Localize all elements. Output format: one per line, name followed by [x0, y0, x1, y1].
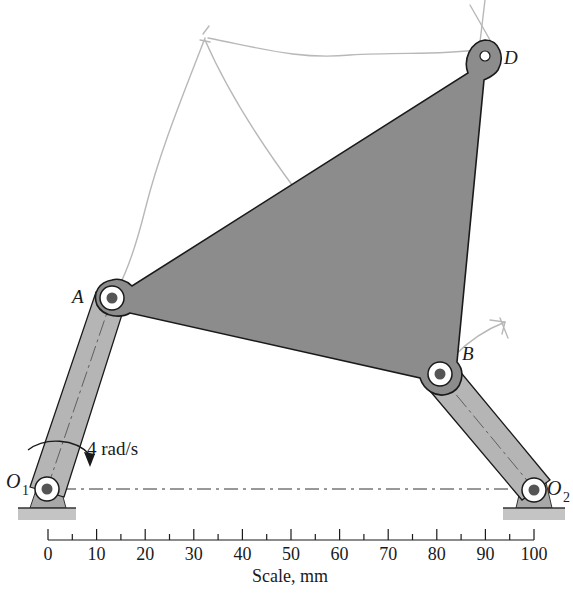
scale-tick-label: 100	[521, 544, 548, 564]
pin-b	[428, 362, 452, 386]
scale-title: Scale, mm	[252, 566, 328, 586]
scale-tick-label: 60	[331, 544, 349, 564]
svg-text:O: O	[547, 477, 561, 499]
pin-o1	[35, 477, 59, 501]
point-label-a: A	[70, 286, 84, 307]
scale-tick-label: 30	[185, 544, 203, 564]
pin-o2	[522, 478, 546, 502]
scale-tick-label: 10	[88, 544, 106, 564]
svg-text:O: O	[6, 470, 20, 492]
point-label-o1: O 1	[6, 470, 29, 498]
point-label-b: B	[462, 343, 474, 364]
pin-a	[100, 286, 124, 310]
scale-tick-label: 20	[136, 544, 154, 564]
angular-velocity-label: 4 rad/s	[87, 438, 138, 459]
scale-tick-label: 0	[44, 544, 53, 564]
svg-text:2: 2	[563, 490, 570, 505]
point-label-d: D	[503, 47, 518, 68]
link-o1-a	[30, 292, 126, 497]
scale-bar: 0102030405060708090100 Scale, mm	[44, 529, 548, 586]
coupler-plate	[95, 40, 501, 395]
svg-text:1: 1	[22, 483, 29, 498]
scale-tick-label: 40	[233, 544, 251, 564]
pin-d	[480, 51, 490, 61]
linkage-diagram: 4 rad/s A B D O 1 O 2 010203040506070809…	[0, 0, 573, 594]
scale-tick-label: 50	[282, 544, 300, 564]
scale-tick-label: 80	[428, 544, 446, 564]
scale-tick-label: 90	[476, 544, 494, 564]
scale-tick-label: 70	[379, 544, 397, 564]
